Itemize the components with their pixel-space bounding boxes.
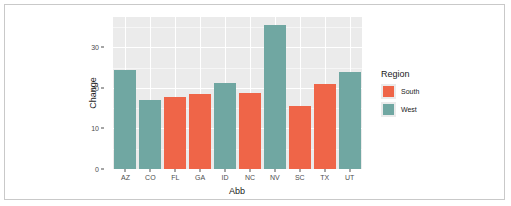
legend-label-south: South <box>401 88 419 95</box>
legend-swatch-south <box>383 86 394 97</box>
x-tick-label-id: ID <box>222 174 229 181</box>
x-tick-label-ga: GA <box>195 174 205 181</box>
x-tick-mark <box>249 169 250 172</box>
bar-sc <box>289 106 311 169</box>
x-tick-mark <box>299 169 300 172</box>
y-tick-mark <box>101 128 104 129</box>
x-tick-label-az: AZ <box>121 174 130 181</box>
bar-nc <box>239 93 261 169</box>
x-tick-label-sc: SC <box>295 174 305 181</box>
x-axis-title: Abb <box>229 186 245 196</box>
x-tick-label-fl: FL <box>171 174 179 181</box>
legend-items: SouthWest <box>381 84 451 117</box>
figure-frame: 0102030 Change AZCOFLGAIDNCNVSCTXUT Abb … <box>4 4 505 200</box>
bar-az <box>114 70 136 169</box>
legend-title: Region <box>381 69 451 79</box>
x-tick-label-ut: UT <box>345 174 354 181</box>
x-tick-mark <box>125 169 126 172</box>
bar-id <box>214 83 236 169</box>
y-tick-label: 10 <box>91 125 99 132</box>
bar-tx <box>314 84 336 169</box>
bar-chart: 0102030 Change AZCOFLGAIDNCNVSCTXUT Abb … <box>5 5 504 199</box>
y-tick-mark <box>101 87 104 88</box>
x-tick-label-co: CO <box>145 174 156 181</box>
legend-swatch-box <box>381 84 396 99</box>
x-tick-label-nc: NC <box>245 174 255 181</box>
x-tick-mark <box>349 169 350 172</box>
x-tick-label-nv: NV <box>270 174 280 181</box>
x-tick-mark <box>200 169 201 172</box>
legend-item-west[interactable]: West <box>381 102 451 117</box>
x-tick-label-tx: TX <box>320 174 329 181</box>
y-tick-mark <box>101 169 104 170</box>
y-axis-title: Change <box>88 77 98 109</box>
bar-ut <box>339 72 361 169</box>
legend-swatch-box <box>381 102 396 117</box>
legend-item-south[interactable]: South <box>381 84 451 99</box>
x-tick-mark <box>175 169 176 172</box>
x-tick-mark <box>150 169 151 172</box>
plot-panel <box>113 17 362 169</box>
y-tick-mark <box>101 47 104 48</box>
legend-label-west: West <box>401 106 417 113</box>
x-tick-mark <box>274 169 275 172</box>
legend-swatch-west <box>383 104 394 115</box>
x-tick-mark <box>324 169 325 172</box>
bar-nv <box>264 25 286 169</box>
y-tick-label: 0 <box>95 166 99 173</box>
bar-co <box>139 100 161 169</box>
x-tick-mark <box>225 169 226 172</box>
y-tick-label: 30 <box>91 44 99 51</box>
bar-fl <box>164 97 186 169</box>
bar-ga <box>189 94 211 169</box>
legend: Region SouthWest <box>381 69 451 120</box>
